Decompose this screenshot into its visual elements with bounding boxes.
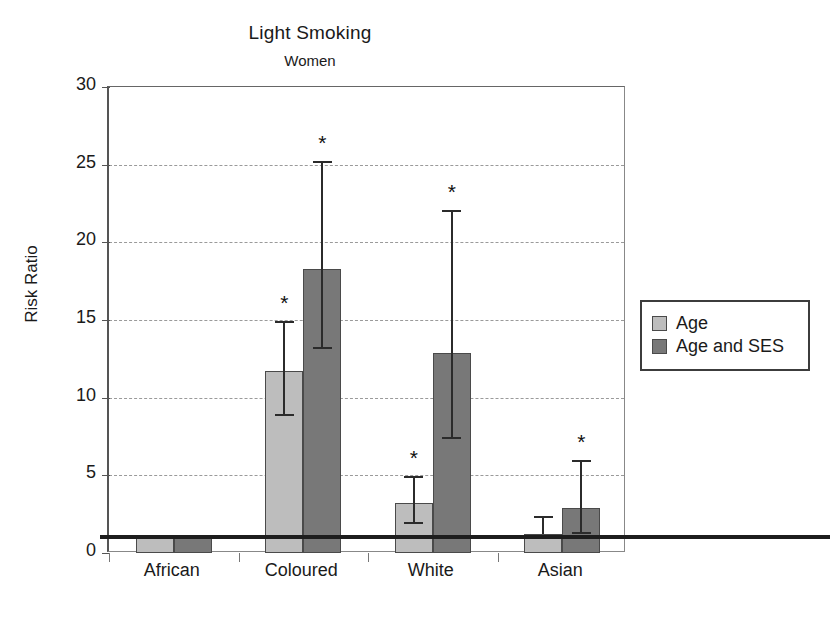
y-tick-label: 30 — [50, 74, 96, 95]
legend-label-age-and-ses: Age and SES — [676, 336, 784, 357]
y-tick-label: 10 — [50, 385, 96, 406]
error-bar-cap — [313, 161, 332, 163]
error-bar-cap — [534, 516, 553, 518]
legend-item-age-and-ses: Age and SES — [652, 336, 798, 357]
error-bar — [413, 477, 415, 524]
y-tick-mark — [102, 87, 110, 88]
error-bar — [451, 211, 453, 438]
y-tick-mark — [102, 398, 110, 399]
reference-line — [100, 535, 830, 539]
y-tick-label: 15 — [50, 307, 96, 328]
error-bar-cap — [442, 437, 461, 439]
y-tick-label: 25 — [50, 152, 96, 173]
legend-swatch-age — [652, 316, 667, 331]
legend-item-age: Age — [652, 313, 798, 334]
chart-legend: Age Age and SES — [640, 300, 810, 371]
significance-star: * — [274, 292, 294, 313]
y-tick-mark — [102, 165, 110, 166]
gridline — [109, 475, 624, 476]
y-tick-label: 0 — [50, 540, 96, 561]
gridline — [109, 398, 624, 399]
chart-title: Light Smoking — [0, 22, 620, 44]
legend-swatch-age-and-ses — [652, 339, 667, 354]
error-bar-cap — [442, 210, 461, 212]
error-bar-cap — [404, 522, 423, 524]
error-bar — [542, 517, 544, 534]
bar-chart: Light Smoking Women Risk Ratio ***** Age… — [0, 0, 834, 621]
y-tick-mark — [102, 320, 110, 321]
bar-african-series0 — [136, 537, 174, 553]
significance-star: * — [404, 447, 424, 468]
bar-african-series1 — [174, 537, 212, 553]
error-bar-cap — [404, 476, 423, 478]
legend-label-age: Age — [676, 313, 708, 334]
error-bar-cap — [275, 321, 294, 323]
gridline — [109, 165, 624, 166]
significance-star: * — [312, 132, 332, 153]
y-tick-label: 20 — [50, 229, 96, 250]
y-tick-mark — [102, 242, 110, 243]
gridline — [109, 242, 624, 243]
error-bar-cap — [572, 460, 591, 462]
x-tick-label: Asian — [470, 560, 650, 581]
error-bar — [321, 162, 323, 348]
gridline — [109, 320, 624, 321]
chart-subtitle: Women — [0, 52, 620, 69]
error-bar-cap — [572, 532, 591, 534]
significance-star: * — [442, 181, 462, 202]
y-tick-mark — [102, 475, 110, 476]
y-axis-label: Risk Ratio — [22, 194, 42, 374]
error-bar-cap — [313, 347, 332, 349]
plot-area: ***** — [107, 86, 625, 552]
error-bar — [283, 322, 285, 415]
significance-star: * — [571, 431, 591, 452]
error-bar-cap — [275, 414, 294, 416]
y-tick-label: 5 — [50, 462, 96, 483]
error-bar — [580, 461, 582, 532]
